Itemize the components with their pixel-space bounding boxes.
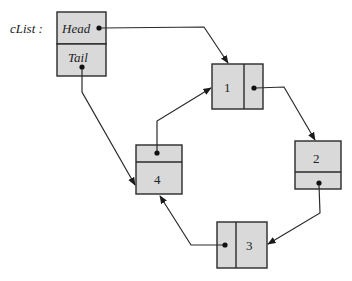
edge-tail-to-node-4 [82, 69, 135, 185]
node-4-pointer-dot [154, 150, 159, 155]
edge-node-1-to-node-2 [256, 87, 315, 140]
edge-head-to-node-1 [101, 27, 228, 63]
list-name-label: cList : [10, 21, 43, 36]
node-2-value: 2 [313, 151, 320, 166]
node-2-pointer-dot [316, 180, 321, 185]
edge-node-3-to-node-4 [160, 196, 223, 245]
tail-pointer-dot [79, 64, 84, 69]
node-3-value: 3 [246, 238, 253, 253]
node-4-value: 4 [154, 172, 161, 187]
edge-node-4-to-node-1 [157, 88, 211, 151]
node-1: 1 [212, 64, 263, 109]
clist-header-box: Head Tail [57, 12, 106, 76]
head-label: Head [61, 21, 91, 36]
node-1-pointer-dot [251, 85, 256, 90]
edge-node-2-to-node-3 [268, 185, 320, 244]
head-pointer-dot [96, 25, 101, 30]
node-4: 4 [136, 145, 182, 194]
node-1-value: 1 [224, 80, 231, 95]
node-3: 3 [217, 222, 267, 268]
node-2: 2 [295, 141, 341, 189]
linked-list-diagram: cList : Head Tail 1 2 3 4 [0, 0, 352, 281]
node-3-pointer-dot [222, 242, 227, 247]
tail-label: Tail [68, 50, 88, 65]
